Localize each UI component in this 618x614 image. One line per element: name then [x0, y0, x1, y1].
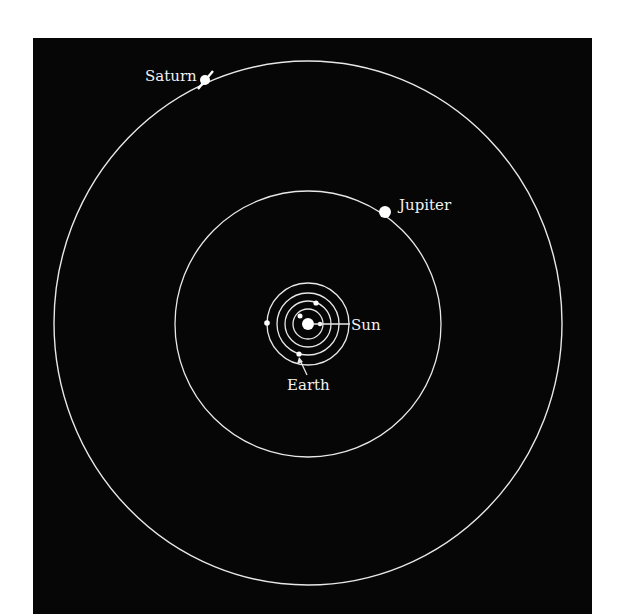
- earth-icon: [296, 351, 301, 356]
- saturn-label: Saturn: [145, 67, 197, 85]
- sun-label: Sun: [351, 316, 381, 334]
- earth-pointer-arrow: [297, 357, 307, 375]
- jupiter-label: Jupiter: [397, 196, 452, 214]
- solar-system-diagram: Saturn Jupiter Sun Earth: [0, 0, 618, 614]
- planet-dot-icon: [313, 300, 318, 305]
- venus-icon: [298, 314, 303, 319]
- saturn-icon: [198, 71, 213, 89]
- jupiter-icon: [379, 206, 391, 218]
- sun-icon: [302, 318, 314, 330]
- earth-label: Earth: [287, 376, 330, 394]
- mars-icon: [264, 320, 270, 326]
